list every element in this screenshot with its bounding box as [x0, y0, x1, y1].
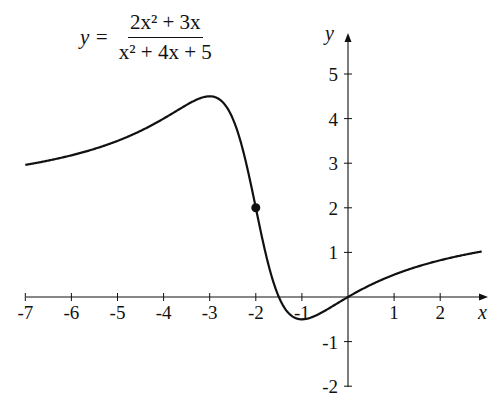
- x-tick-label: -3: [202, 302, 218, 323]
- x-tick-label: -7: [17, 302, 33, 323]
- y-axis-label: y: [323, 22, 334, 45]
- x-axis-label: x: [477, 301, 487, 323]
- x-tick-label: 1: [389, 302, 399, 323]
- y-tick-label: 5: [329, 64, 339, 85]
- equation-denominator: x² + 4x + 5: [117, 38, 214, 65]
- y-tick-label: -2: [322, 376, 338, 397]
- y-tick-label: 3: [329, 153, 339, 174]
- y-axis-arrow-icon: [345, 33, 352, 42]
- y-tick-label: 4: [329, 109, 339, 130]
- y-tick-label: 2: [329, 198, 339, 219]
- equation-numerator: 2x² + 3x: [128, 10, 203, 38]
- chart-canvas: -7-6-5-4-3-2-112-2-112345xy: [0, 0, 492, 408]
- x-tick-label: -2: [248, 302, 264, 323]
- highlighted-point: [251, 203, 260, 212]
- y-tick-label: -1: [322, 332, 338, 353]
- equation-lhs: y =: [80, 25, 109, 50]
- x-tick-label: -6: [63, 302, 79, 323]
- x-tick-label: -4: [156, 302, 172, 323]
- y-tick-label: 1: [329, 242, 339, 263]
- x-tick-label: -5: [110, 302, 126, 323]
- x-axis-arrow-icon: [479, 294, 488, 301]
- equation-label: y = 2x² + 3x x² + 4x + 5: [80, 10, 214, 65]
- equation-fraction: 2x² + 3x x² + 4x + 5: [117, 10, 214, 65]
- x-tick-label: 2: [435, 302, 445, 323]
